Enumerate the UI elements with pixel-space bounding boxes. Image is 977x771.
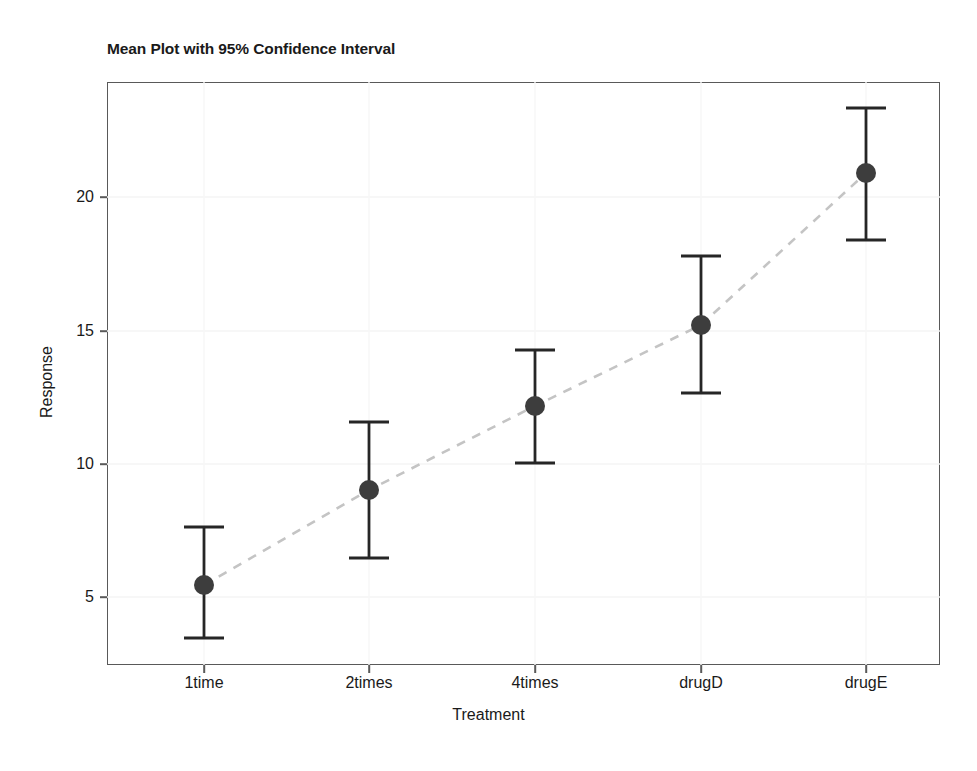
gridlines-group: [107, 82, 940, 665]
x-tick-label-1time: 1time: [184, 674, 223, 692]
x-tick-mark-drugD: [700, 665, 702, 673]
y-tick-label-10: 10: [48, 455, 94, 473]
y-tick-mark-5: [100, 596, 107, 598]
x-tick-label-2times: 2times: [345, 674, 392, 692]
x-tick-mark-1time: [203, 665, 205, 673]
mean-point-2times: [359, 480, 379, 500]
x-tick-label-drugE: drugE: [845, 674, 888, 692]
chart-figure: Mean Plot with 95% Confidence Interval: [0, 0, 977, 771]
mean-point-1time: [194, 575, 214, 595]
x-tick-label-4times: 4times: [511, 674, 558, 692]
y-tick-mark-15: [100, 330, 107, 332]
y-tick-label-5: 5: [48, 588, 94, 606]
x-tick-label-drugD: drugD: [679, 674, 723, 692]
y-tick-mark-10: [100, 463, 107, 465]
y-axis-title: Response: [38, 322, 56, 442]
x-tick-mark-drugE: [865, 665, 867, 673]
mean-point-drugD: [691, 315, 711, 335]
x-axis-title: Treatment: [0, 706, 977, 724]
mean-point-4times: [525, 396, 545, 416]
plot-canvas: [107, 82, 940, 665]
y-tick-label-20: 20: [48, 188, 94, 206]
x-tick-mark-2times: [368, 665, 370, 673]
x-tick-mark-4times: [534, 665, 536, 673]
chart-title: Mean Plot with 95% Confidence Interval: [107, 40, 395, 58]
y-tick-mark-20: [100, 196, 107, 198]
mean-point-drugE: [856, 163, 876, 183]
